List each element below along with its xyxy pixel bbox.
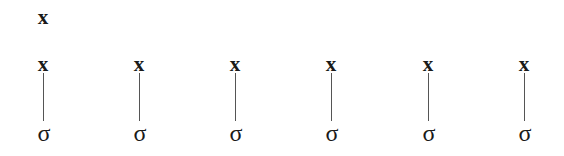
node-sigma: σ — [320, 123, 344, 143]
edge-line — [43, 73, 44, 121]
node-sigma: σ — [224, 123, 248, 143]
edge-line — [331, 73, 332, 121]
node-x: x — [512, 54, 536, 74]
edge-line — [428, 73, 429, 121]
diagram: x x σ x σ x σ x σ x σ x σ — [0, 0, 564, 156]
node-sigma: σ — [513, 123, 537, 143]
node-x: x — [31, 54, 55, 74]
node-sigma: σ — [417, 123, 441, 143]
edge-line — [139, 73, 140, 121]
node-x: x — [127, 54, 151, 74]
edge-line — [524, 73, 525, 121]
node-x: x — [319, 54, 343, 74]
node-sigma: σ — [128, 123, 152, 143]
node-x: x — [223, 54, 247, 74]
node-x: x — [416, 54, 440, 74]
node-sigma: σ — [32, 123, 56, 143]
top-node-x: x — [31, 7, 55, 27]
edge-line — [235, 73, 236, 121]
